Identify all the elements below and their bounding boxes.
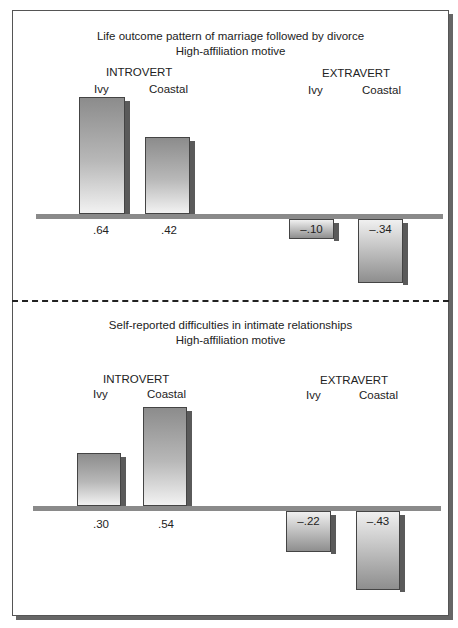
chart-title: Life outcome pattern of marriage followe… xyxy=(13,29,448,44)
category-label-extravert-coastal: Coastal xyxy=(359,389,398,401)
group-label-introvert: INTROVERT xyxy=(103,373,169,385)
value-label: –.10 xyxy=(290,223,333,235)
chart-title: Self-reported difficulties in intimate r… xyxy=(13,318,448,333)
category-label-extravert-coastal: Coastal xyxy=(362,84,401,96)
category-label-introvert-ivy: Ivy xyxy=(94,83,109,95)
bar-introvert-ivy xyxy=(79,97,125,214)
category-label-introvert-ivy: Ivy xyxy=(93,388,108,400)
value-label: –.34 xyxy=(359,223,402,235)
value-label-introvert-ivy: .30 xyxy=(91,518,111,530)
figure-frame: Life outcome pattern of marriage followe… xyxy=(12,10,449,616)
value-label: –.43 xyxy=(357,515,399,527)
category-label-extravert-ivy: Ivy xyxy=(306,389,321,401)
chart-subtitle: High-affiliation motive xyxy=(13,333,448,348)
value-label-introvert-coastal: .42 xyxy=(159,224,179,236)
panel-divider-dashed xyxy=(12,300,449,302)
category-label-introvert-coastal: Coastal xyxy=(149,83,188,95)
value-label: –.22 xyxy=(287,515,330,527)
chart-subtitle: High-affiliation motive xyxy=(13,44,448,59)
value-label-introvert-coastal: .54 xyxy=(156,518,176,530)
bar-extravert-ivy: –.10 xyxy=(289,219,334,239)
bar-introvert-coastal xyxy=(145,137,190,214)
group-label-extravert: EXTRAVERT xyxy=(320,374,388,386)
bar-extravert-coastal: –.34 xyxy=(358,219,403,283)
bar-extravert-coastal: –.43 xyxy=(356,511,400,590)
bar-introvert-ivy xyxy=(77,453,121,506)
value-label-introvert-ivy: .64 xyxy=(91,224,111,236)
category-label-introvert-coastal: Coastal xyxy=(147,388,186,400)
group-label-introvert: INTROVERT xyxy=(106,66,172,78)
bar-introvert-coastal xyxy=(143,407,187,506)
bar-extravert-ivy: –.22 xyxy=(286,511,331,552)
group-label-extravert: EXTRAVERT xyxy=(322,67,390,79)
category-label-extravert-ivy: Ivy xyxy=(308,84,323,96)
